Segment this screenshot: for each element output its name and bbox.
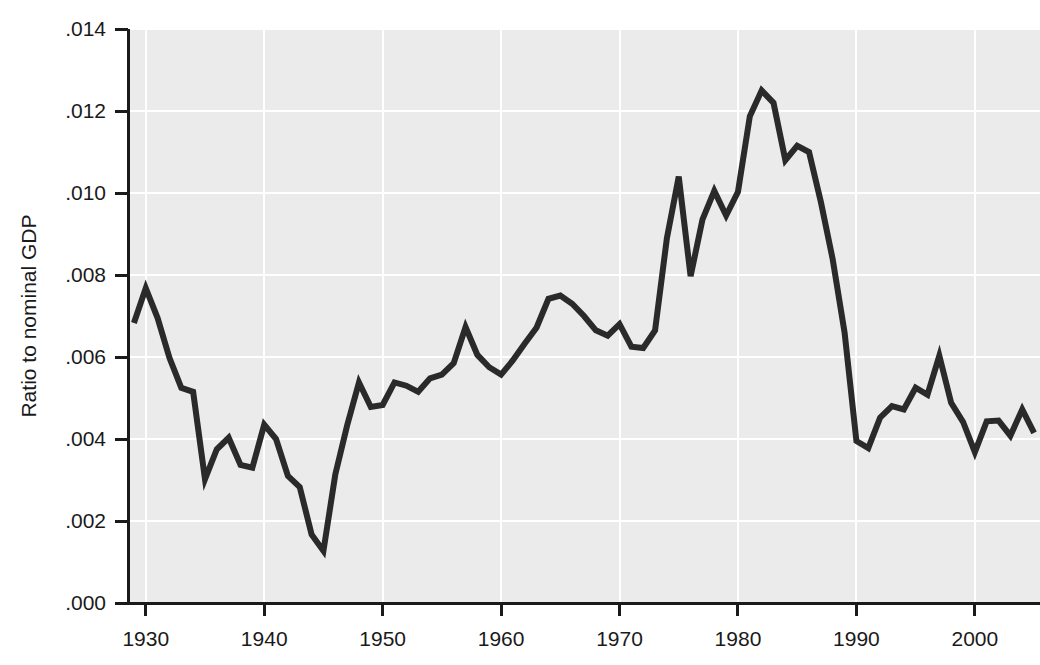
y-axis-ticks: .000.002.004.006.008.010.012.014 — [65, 17, 128, 614]
x-tick-label: 1990 — [833, 627, 880, 650]
y-tick-label: .000 — [65, 591, 106, 614]
y-tick-label: .012 — [65, 99, 106, 122]
x-axis-ticks: 19301940195019601970198019902000 — [122, 603, 998, 650]
x-tick-label: 1980 — [715, 627, 762, 650]
x-tick-label: 1930 — [122, 627, 169, 650]
y-tick-label: .004 — [65, 427, 106, 450]
y-tick-label: .008 — [65, 263, 106, 286]
y-tick-label: .002 — [65, 509, 106, 532]
line-chart: .000.002.004.006.008.010.012.014 1930194… — [0, 0, 1040, 665]
y-tick-label: .014 — [65, 17, 106, 40]
chart-figure: .000.002.004.006.008.010.012.014 1930194… — [0, 0, 1040, 665]
x-tick-label: 1960 — [478, 627, 525, 650]
x-tick-label: 1970 — [596, 627, 643, 650]
x-tick-label: 1950 — [359, 627, 406, 650]
x-tick-label: 1940 — [241, 627, 288, 650]
y-tick-label: .010 — [65, 181, 106, 204]
y-axis-label: Ratio to nominal GDP — [17, 214, 40, 417]
x-tick-label: 2000 — [951, 627, 998, 650]
y-tick-label: .006 — [65, 345, 106, 368]
